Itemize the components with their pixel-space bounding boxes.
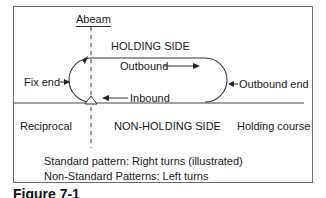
reciprocal-label: Reciprocal xyxy=(20,120,72,132)
standard-pattern-note: Standard pattern: Right turns (illustrat… xyxy=(44,155,243,167)
inbound-arrow-icon xyxy=(102,95,109,101)
fix-turn-arrow-icon xyxy=(82,56,88,64)
holding-course-label: Holding course xyxy=(237,120,310,132)
fix-end-label: Fix end xyxy=(24,76,60,88)
non-standard-pattern-note: Non-Standard Patterns: Left turns xyxy=(44,170,208,182)
figure-caption: Figure 7-1 xyxy=(13,187,80,198)
inbound-label: Inbound xyxy=(130,92,170,104)
outbound-arrow-icon xyxy=(193,63,200,69)
racetrack-outbound-turn xyxy=(205,58,227,102)
racetrack-fix-turn xyxy=(69,58,91,102)
non-holding-side-label: NON-HOLDING SIDE xyxy=(114,120,221,132)
holding-side-label: HOLDING SIDE xyxy=(111,40,190,52)
abeam-label: Abeam xyxy=(76,13,111,27)
fix-triangle-icon xyxy=(85,96,97,104)
outbound-label: Outbound xyxy=(120,60,168,72)
outbound-end-arrow-icon xyxy=(228,81,234,87)
outbound-end-label: Outbound end xyxy=(239,78,309,90)
